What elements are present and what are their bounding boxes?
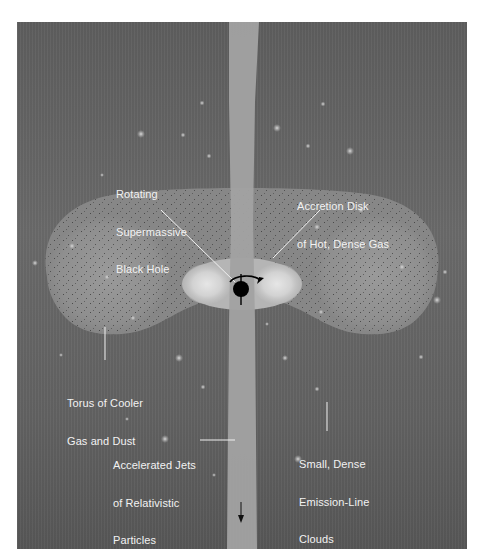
label-line: Clouds bbox=[299, 533, 369, 546]
label-line: Emission-Line bbox=[299, 496, 369, 509]
label-line: Rotating bbox=[116, 188, 187, 201]
agn-diagram: Rotating Supermassive Black Hole Accreti… bbox=[17, 22, 467, 549]
label-black-hole: Rotating Supermassive Black Hole bbox=[116, 163, 187, 301]
label-line: of Hot, Dense Gas bbox=[297, 238, 389, 251]
label-line: Black Hole bbox=[116, 263, 187, 276]
label-line: Particles bbox=[113, 534, 196, 547]
label-line: Accretion Disk bbox=[297, 200, 389, 213]
label-radio-lobes: To Large-Scale Radio Lobes bbox=[209, 523, 284, 549]
label-line: Accelerated Jets bbox=[113, 459, 196, 472]
label-jets: Accelerated Jets of Relativistic Particl… bbox=[113, 434, 196, 549]
label-line: To Large-Scale bbox=[209, 548, 284, 549]
label-accretion-disk: Accretion Disk of Hot, Dense Gas bbox=[297, 175, 389, 275]
label-line: Small, Dense bbox=[299, 458, 369, 471]
label-line: Torus of Cooler bbox=[67, 397, 143, 410]
label-line: Supermassive bbox=[116, 226, 187, 239]
label-clouds: Small, Dense Emission-Line Clouds bbox=[299, 433, 369, 549]
label-line: of Relativistic bbox=[113, 497, 196, 510]
